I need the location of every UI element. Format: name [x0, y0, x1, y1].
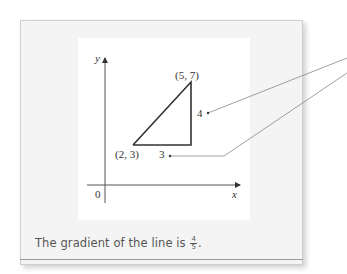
point-label-bottom: (2, 3) — [115, 148, 139, 161]
leader-line-rise — [208, 58, 347, 113]
y-axis-label: y — [94, 52, 100, 64]
caption-text: The gradient of the line is — [35, 236, 186, 250]
run-label: 3 — [159, 148, 165, 160]
gradient-triangle — [133, 82, 191, 145]
leader-dot-run — [169, 155, 171, 157]
rise-label: 4 — [197, 107, 203, 119]
bottom-rule — [20, 259, 303, 260]
origin-label: 0 — [95, 188, 101, 200]
gradient-fraction: 4 5 — [190, 236, 197, 251]
caption-suffix: . — [198, 236, 202, 250]
gradient-diagram: y x 0 (5, 7) (2, 3) 4 3 — [0, 0, 347, 274]
gradient-caption: The gradient of the line is 4 5 . — [35, 236, 202, 251]
fraction-denominator: 5 — [190, 244, 197, 251]
point-label-top: (5, 7) — [175, 69, 199, 82]
x-axis-label: x — [231, 188, 237, 200]
leader-dot-rise — [207, 112, 209, 114]
